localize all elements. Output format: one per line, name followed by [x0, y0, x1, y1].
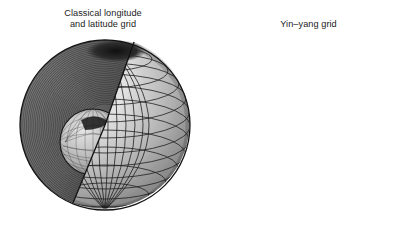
cutaway-sphere-svg — [15, 38, 195, 218]
polar-shadow — [86, 40, 146, 62]
figure-root: Classical longitude and latitude grid — [0, 0, 411, 225]
panel-yinyang-grid: Yin–yang grid — [206, 0, 411, 225]
panel-classical-grid: Classical longitude and latitude grid — [0, 0, 206, 225]
caption-classical-grid: Classical longitude and latitude grid — [0, 8, 206, 30]
caption-yinyang-grid: Yin–yang grid — [206, 19, 411, 30]
cutaway-sphere-classical — [15, 38, 195, 218]
